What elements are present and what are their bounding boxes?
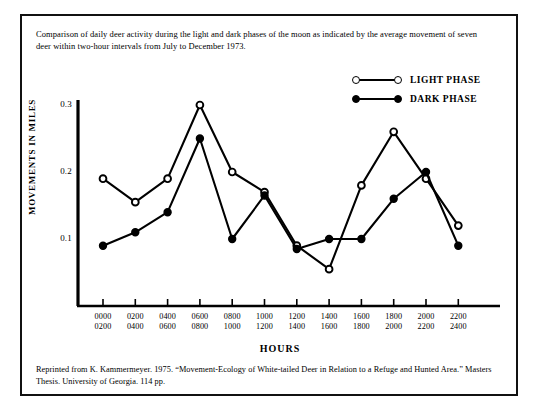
legend-label-dark-phase: DARK PHASE [410, 94, 477, 104]
y-axis-tick-label: 0.2 [42, 166, 72, 176]
figure-caption-top: Comparison of daily deer activity during… [36, 28, 492, 53]
y-axis-tick-label: 0.3 [42, 99, 72, 109]
legend-marker-filled-circle-icon [352, 93, 402, 105]
x-tick-line-end: 2400 [436, 322, 480, 332]
x-tick-line-start: 2200 [436, 312, 480, 322]
y-axis-title: MOVEMENTS IN MILES [27, 97, 37, 217]
legend-marker-open-circle-icon [352, 74, 402, 86]
legend-item-light-phase: LIGHT PHASE [352, 70, 502, 89]
x-axis-tick-label: 22002400 [436, 312, 480, 333]
chart-legend: LIGHT PHASE DARK PHASE [352, 70, 502, 108]
y-axis-tick-label: 0.1 [42, 233, 72, 243]
legend-item-dark-phase: DARK PHASE [352, 89, 502, 108]
legend-label-light-phase: LIGHT PHASE [410, 75, 481, 85]
figure-caption-bottom: Reprinted from K. Kammermeyer. 1975. “Mo… [36, 364, 492, 388]
x-axis-title: HOURS [180, 343, 380, 354]
